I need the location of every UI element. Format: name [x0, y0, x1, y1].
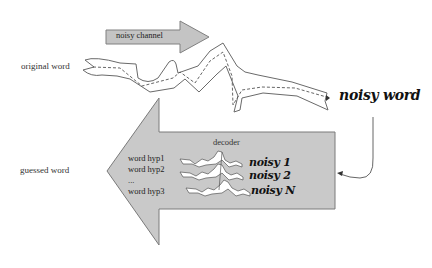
noisy-output-item: noisy 2 [249, 169, 290, 182]
original-word-label: original word [21, 61, 70, 71]
hypothesis-item: word hyp2 [128, 164, 165, 174]
hypothesis-item: word hyp3 [128, 186, 165, 196]
noisy-channel-diagram: original word guessed word noisy channel… [0, 0, 432, 268]
feedback-arrowhead [337, 171, 343, 176]
decoder-label: decoder [213, 137, 240, 147]
hypothesis-ellipsis: ... [128, 175, 134, 185]
noisy-word-label: noisy word [339, 87, 420, 103]
guessed-word-label: guessed word [20, 165, 69, 175]
hypothesis-item: word hyp1 [128, 153, 165, 163]
noisy-output-item: noisy N [251, 184, 295, 197]
dashed-arrowhead [326, 95, 330, 101]
noisy-channel-label: noisy channel [116, 30, 163, 40]
diagram-graphics [0, 0, 432, 268]
channel-path-outline [83, 43, 328, 112]
feedback-curve-arrow [340, 117, 373, 178]
noisy-output-item: noisy 1 [249, 156, 290, 169]
